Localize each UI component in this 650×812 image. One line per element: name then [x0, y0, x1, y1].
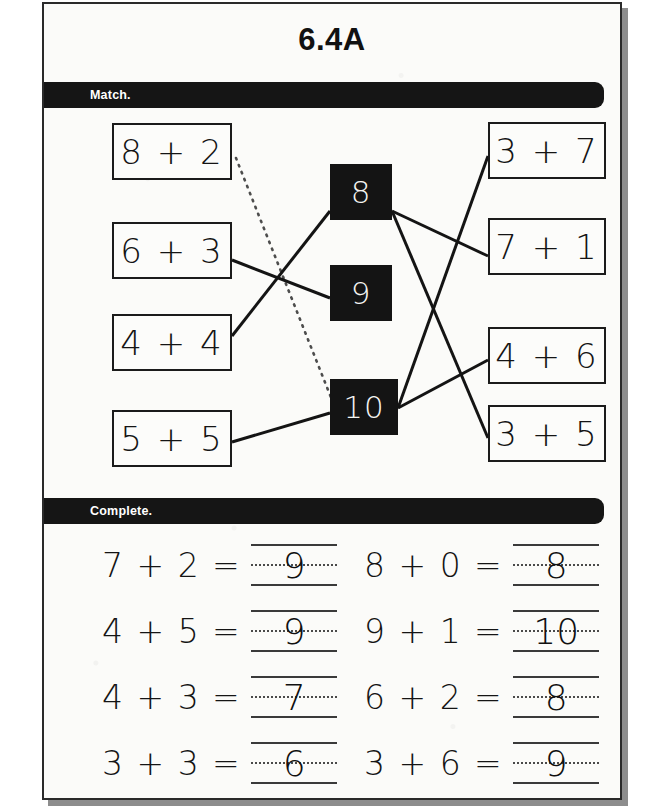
match-right-box-3-label: 3 + 5 — [495, 414, 598, 454]
section-bar-complete: Complete. — [42, 498, 604, 524]
complete-left-answer-slot-1[interactable]: 9 — [251, 604, 337, 658]
match-right-box-1-label: 7 + 1 — [495, 227, 598, 267]
section-label-complete: Complete. — [90, 504, 152, 518]
complete-left-answer-slot-0[interactable]: 9 — [251, 538, 337, 592]
complete-right-answer-slot-2[interactable]: 8 — [513, 670, 599, 724]
match-right-box-2-label: 4 + 6 — [495, 336, 598, 376]
complete-right-item-2: 6 + 2 =8 — [364, 666, 599, 728]
match-right-box-3[interactable]: 3 + 5 — [488, 405, 606, 462]
complete-left-answer-0: 9 — [251, 538, 337, 592]
worksheet-page: 6.4A Match. 8 + 26 + 34 + 45 + 53 + 77 +… — [42, 2, 622, 800]
section-bar-match: Match. — [42, 82, 604, 108]
complete-right-item-3: 3 + 6 =9 — [364, 732, 599, 794]
match-right-box-0-label: 3 + 7 — [495, 131, 598, 171]
connector-c-left-8p2-to-10[interactable] — [236, 158, 332, 400]
match-sum-box-1[interactable]: 9 — [330, 265, 392, 321]
match-sum-box-1-label: 9 — [351, 275, 372, 311]
complete-right-answer-slot-3[interactable]: 9 — [513, 736, 599, 790]
complete-left-item-1: 4 + 5 =9 — [102, 600, 337, 662]
connector-c-left-6p3-to-9[interactable] — [232, 260, 330, 298]
complete-left-prompt-3: 3 + 3 = — [102, 744, 241, 783]
match-right-box-1[interactable]: 7 + 1 — [488, 218, 606, 275]
complete-left-prompt-2: 4 + 3 = — [102, 678, 241, 717]
complete-right-prompt-1: 9 + 1 = — [364, 612, 503, 651]
section-label-match: Match. — [90, 88, 131, 102]
complete-right-answer-slot-1[interactable]: 10 — [513, 604, 599, 658]
complete-left-prompt-0: 7 + 2 = — [102, 546, 241, 585]
match-left-box-1[interactable]: 6 + 3 — [112, 222, 232, 279]
complete-right-answer-0: 8 — [513, 538, 599, 592]
connector-c-10-to-4p6[interactable] — [398, 360, 488, 408]
match-exercise-area: 8 + 26 + 34 + 45 + 53 + 77 + 14 + 63 + 5… — [44, 108, 622, 496]
match-sum-box-0[interactable]: 8 — [330, 164, 392, 220]
complete-left-answer-3: 6 — [251, 736, 337, 790]
complete-left-answer-slot-3[interactable]: 6 — [251, 736, 337, 790]
match-left-box-0[interactable]: 8 + 2 — [112, 123, 232, 180]
complete-row-3: 3 + 3 =63 + 6 =9 — [44, 732, 622, 794]
match-left-box-3[interactable]: 5 + 5 — [112, 410, 232, 467]
match-right-box-2[interactable]: 4 + 6 — [488, 327, 606, 384]
connector-c-left-5p5-to-10[interactable] — [232, 413, 330, 442]
complete-row-0: 7 + 2 =98 + 0 =8 — [44, 534, 622, 596]
connector-c-left-4p4-to-8[interactable] — [232, 211, 330, 336]
complete-left-answer-slot-2[interactable]: 7 — [251, 670, 337, 724]
connector-c-8-to-7p1[interactable] — [392, 211, 488, 256]
complete-left-prompt-1: 4 + 5 = — [102, 612, 241, 651]
match-right-box-0[interactable]: 3 + 7 — [488, 122, 606, 179]
complete-right-answer-2: 8 — [513, 670, 599, 724]
complete-right-prompt-0: 8 + 0 = — [364, 546, 503, 585]
match-left-box-1-label: 6 + 3 — [120, 231, 223, 271]
complete-left-answer-1: 9 — [251, 604, 337, 658]
complete-row-2: 4 + 3 =76 + 2 =8 — [44, 666, 622, 728]
complete-row-1: 4 + 5 =99 + 1 =10 — [44, 600, 622, 662]
complete-right-answer-1: 10 — [513, 604, 599, 658]
complete-right-answer-slot-0[interactable]: 8 — [513, 538, 599, 592]
match-left-box-3-label: 5 + 5 — [120, 419, 223, 459]
complete-right-item-1: 9 + 1 =10 — [364, 600, 599, 662]
complete-left-item-0: 7 + 2 =9 — [102, 534, 337, 596]
complete-left-item-2: 4 + 3 =7 — [102, 666, 337, 728]
connector-c-8-to-3p5[interactable] — [392, 211, 488, 438]
complete-right-prompt-3: 3 + 6 = — [364, 744, 503, 783]
match-sum-box-2[interactable]: 10 — [330, 379, 398, 435]
worksheet-screenshot: 6.4A Match. 8 + 26 + 34 + 45 + 53 + 77 +… — [0, 0, 650, 812]
match-left-box-2-label: 4 + 4 — [120, 323, 223, 363]
complete-right-item-0: 8 + 0 =8 — [364, 534, 599, 596]
complete-right-answer-3: 9 — [513, 736, 599, 790]
complete-left-answer-2: 7 — [251, 670, 337, 724]
match-sum-box-0-label: 8 — [351, 174, 372, 210]
complete-exercise-area: 7 + 2 =98 + 0 =84 + 5 =99 + 1 =104 + 3 =… — [44, 526, 622, 794]
match-left-box-0-label: 8 + 2 — [120, 132, 223, 172]
complete-right-prompt-2: 6 + 2 = — [364, 678, 503, 717]
complete-left-item-3: 3 + 3 =6 — [102, 732, 337, 794]
match-sum-box-2-label: 10 — [343, 389, 384, 425]
page-title: 6.4A — [44, 22, 620, 58]
match-left-box-2[interactable]: 4 + 4 — [112, 314, 232, 371]
connector-c-10-to-3p7[interactable] — [398, 156, 488, 408]
